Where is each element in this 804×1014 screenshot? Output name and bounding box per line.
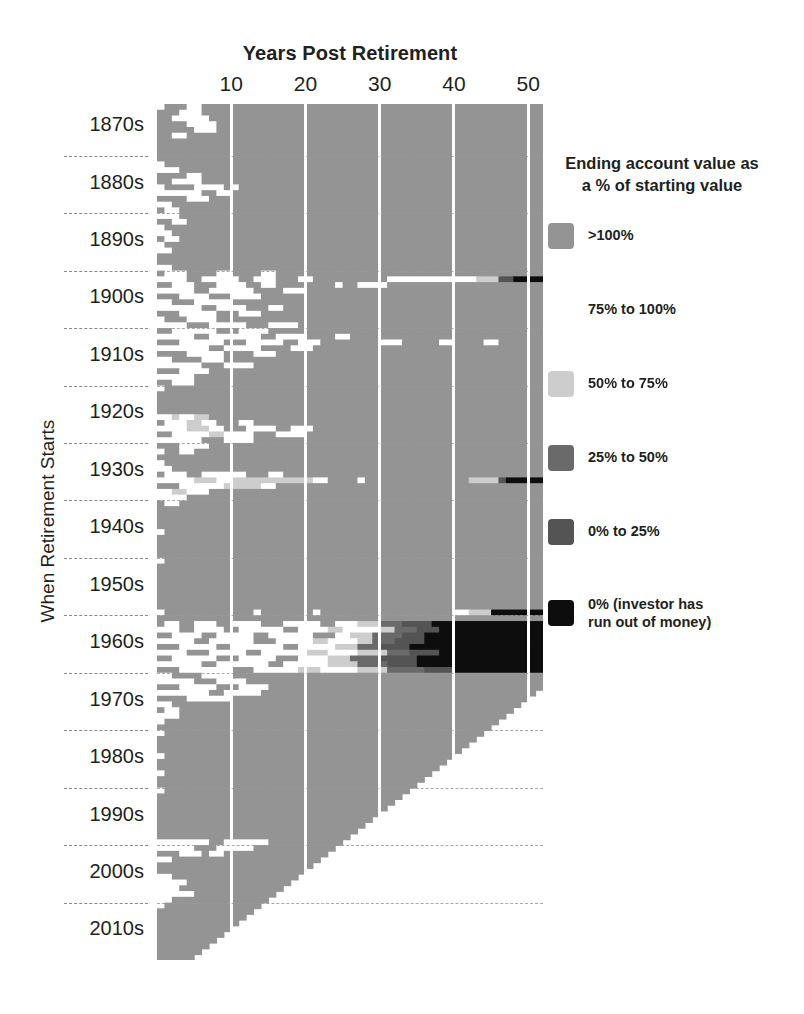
y-tick-1960s: 1960s bbox=[90, 630, 145, 653]
decade-separator bbox=[64, 558, 148, 559]
decade-separator bbox=[64, 213, 148, 214]
y-tick-1870s: 1870s bbox=[90, 113, 145, 136]
legend-item-2: 50% to 75% bbox=[548, 371, 788, 397]
x-tick-20: 20 bbox=[294, 72, 317, 96]
heatmap-plot-area bbox=[157, 104, 543, 960]
y-tick-1920s: 1920s bbox=[90, 400, 145, 423]
decade-separator bbox=[64, 156, 148, 157]
decade-separator-plot bbox=[157, 558, 543, 559]
y-tick-2010s: 2010s bbox=[90, 917, 145, 940]
decade-separator-plot bbox=[157, 788, 543, 789]
legend-label-3: 25% to 50% bbox=[588, 448, 668, 467]
decade-separator bbox=[64, 271, 148, 272]
y-tick-1910s: 1910s bbox=[90, 342, 145, 365]
decade-separator-plot bbox=[157, 156, 543, 157]
y-tick-1880s: 1880s bbox=[90, 170, 145, 193]
decade-separator bbox=[64, 328, 148, 329]
x-tick-50: 50 bbox=[516, 72, 539, 96]
legend-label-line-2: run out of money) bbox=[588, 613, 711, 632]
y-tick-1980s: 1980s bbox=[90, 745, 145, 768]
legend-label-5: 0% (investor hasrun out of money) bbox=[588, 595, 711, 633]
decade-separator-plot bbox=[157, 271, 543, 272]
legend-swatch-0 bbox=[548, 223, 574, 249]
y-tick-2000s: 2000s bbox=[90, 859, 145, 882]
y-tick-1930s: 1930s bbox=[90, 457, 145, 480]
legend-item-5: 0% (investor hasrun out of money) bbox=[548, 595, 788, 633]
y-tick-1950s: 1950s bbox=[90, 572, 145, 595]
decade-separator-plot bbox=[157, 213, 543, 214]
decade-separator bbox=[64, 500, 148, 501]
decade-separator bbox=[64, 386, 148, 387]
decade-separator bbox=[64, 443, 148, 444]
y-tick-1890s: 1890s bbox=[90, 228, 145, 251]
legend-item-0: >100% bbox=[548, 223, 788, 249]
chart-canvas: Years Post Retirement When Retirement St… bbox=[0, 0, 804, 1014]
decade-separator-plot bbox=[157, 386, 543, 387]
legend-title: Ending account value as a % of starting … bbox=[548, 152, 776, 197]
decade-separator-plot bbox=[157, 903, 543, 904]
decade-separator bbox=[64, 788, 148, 789]
gridline-40 bbox=[452, 104, 455, 960]
legend-swatch-2 bbox=[548, 371, 574, 397]
legend-swatch-1 bbox=[548, 297, 574, 323]
decade-separator bbox=[64, 845, 148, 846]
legend-swatch-5 bbox=[548, 600, 574, 626]
heatmap-cells bbox=[157, 104, 543, 960]
decade-separator-plot bbox=[157, 328, 543, 329]
legend-title-line-1: Ending account value as bbox=[548, 152, 776, 174]
legend-item-1: 75% to 100% bbox=[548, 297, 788, 323]
gridline-30 bbox=[378, 104, 381, 960]
decade-separator-plot bbox=[157, 500, 543, 501]
y-tick-1970s: 1970s bbox=[90, 687, 145, 710]
legend-item-4: 0% to 25% bbox=[548, 519, 788, 545]
legend-items: >100%75% to 100%50% to 75%25% to 50%0% t… bbox=[548, 223, 796, 623]
x-axis-tick-labels: 1020304050 bbox=[157, 72, 543, 98]
decade-separator bbox=[64, 730, 148, 731]
x-tick-30: 30 bbox=[368, 72, 391, 96]
legend-title-line-2: a % of starting value bbox=[548, 174, 776, 196]
decade-separator-plot bbox=[157, 845, 543, 846]
legend-label-0: >100% bbox=[588, 226, 634, 245]
y-tick-1990s: 1990s bbox=[90, 802, 145, 825]
legend-swatch-4 bbox=[548, 519, 574, 545]
decade-separator bbox=[64, 903, 148, 904]
decade-separator-plot bbox=[157, 730, 543, 731]
legend-label-line-1: 0% (investor has bbox=[588, 595, 711, 614]
legend-label-4: 0% to 25% bbox=[588, 522, 660, 541]
x-tick-10: 10 bbox=[220, 72, 243, 96]
y-tick-1900s: 1900s bbox=[90, 285, 145, 308]
legend-label-1: 75% to 100% bbox=[588, 300, 676, 319]
y-axis-tick-labels: 1870s1880s1890s1900s1910s1920s1930s1940s… bbox=[56, 104, 152, 960]
gridline-10 bbox=[230, 104, 233, 960]
legend-item-3: 25% to 50% bbox=[548, 445, 788, 471]
y-tick-1940s: 1940s bbox=[90, 515, 145, 538]
gridline-50 bbox=[527, 104, 530, 960]
decade-separator-plot bbox=[157, 673, 543, 674]
decade-separator-plot bbox=[157, 443, 543, 444]
decade-separator bbox=[64, 673, 148, 674]
heatmap-raster bbox=[157, 104, 543, 960]
x-tick-40: 40 bbox=[442, 72, 465, 96]
decade-separator bbox=[64, 615, 148, 616]
legend: Ending account value as a % of starting … bbox=[548, 152, 796, 623]
x-axis-title: Years Post Retirement bbox=[157, 42, 543, 65]
legend-swatch-3 bbox=[548, 445, 574, 471]
gridline-20 bbox=[304, 104, 307, 960]
legend-label-2: 50% to 75% bbox=[588, 374, 668, 393]
decade-separator-plot bbox=[157, 615, 543, 616]
